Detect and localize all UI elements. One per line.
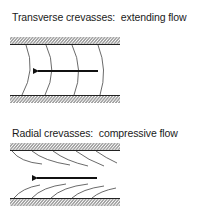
top-margin-hatch <box>10 143 120 150</box>
radial-crevasse <box>92 188 116 198</box>
radial-crevasse <box>53 151 88 166</box>
top-margin-hatch <box>10 37 120 44</box>
transverse-figure <box>10 37 120 103</box>
radial-crevasse <box>51 184 88 198</box>
radial-crevasse <box>12 151 42 164</box>
crevasse-diagram <box>0 0 197 209</box>
bottom-margin-hatch <box>10 199 120 206</box>
radial-figure <box>10 143 120 206</box>
transverse-crevasse <box>22 45 30 95</box>
radial-crevasse <box>72 186 104 198</box>
radial-crevasse <box>14 185 40 198</box>
transverse-crevasse <box>98 45 104 95</box>
bottom-margin-hatch <box>10 96 120 103</box>
radial-crevasse <box>96 151 117 163</box>
